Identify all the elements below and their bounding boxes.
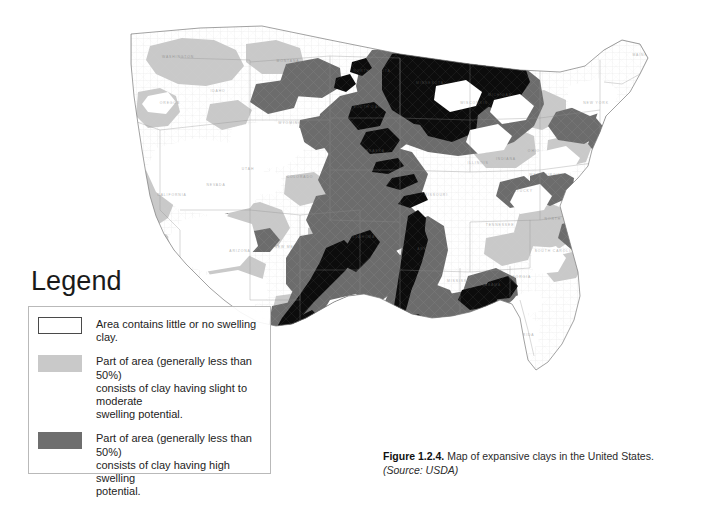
svg-text:WASHINGTON: WASHINGTON — [162, 55, 194, 59]
svg-text:WISCONSIN: WISCONSIN — [460, 101, 488, 105]
svg-text:NEBRASKA: NEBRASKA — [359, 149, 385, 153]
legend-item-label: Part of area (generally less than 50%) c… — [96, 431, 262, 498]
svg-text:CALIFORNIA: CALIFORNIA — [157, 193, 186, 197]
svg-text:IDAHO: IDAHO — [210, 89, 225, 93]
light-gray-slight-moderate-swatch — [38, 355, 82, 372]
svg-text:FLORIDA: FLORIDA — [514, 333, 535, 337]
legend: Legend Area contains little or no swelli… — [28, 268, 278, 474]
svg-text:ILLINOIS: ILLINOIS — [467, 161, 488, 165]
svg-text:IOWA: IOWA — [424, 143, 437, 147]
svg-text:INDIANA: INDIANA — [496, 157, 516, 161]
figure-caption-text: Map of expansive clays in the United Sta… — [447, 450, 654, 462]
legend-item-no-clay: Area contains little or no swelling clay… — [38, 316, 262, 344]
svg-text:NEW MEXICO: NEW MEXICO — [274, 245, 305, 249]
svg-text:MONTANA: MONTANA — [276, 59, 299, 63]
svg-text:KANSAS: KANSAS — [358, 193, 377, 197]
svg-text:NORTH DAKOTA: NORTH DAKOTA — [353, 69, 390, 73]
legend-box: Area contains little or no swelling clay… — [28, 306, 271, 474]
legend-item-slight-moderate: Part of area (generally less than 50%) c… — [38, 354, 262, 421]
svg-text:GEORGIA: GEORGIA — [509, 275, 531, 279]
legend-title: Legend — [31, 268, 278, 295]
svg-text:KENTUCKY: KENTUCKY — [507, 189, 533, 193]
figure-source: (Source: USDA) — [383, 463, 695, 477]
legend-item-label: Part of area (generally less than 50%) c… — [96, 354, 262, 421]
svg-text:TEXAS: TEXAS — [322, 293, 338, 297]
svg-text:OREGON: OREGON — [160, 101, 180, 105]
svg-text:WEST VIRGINIA: WEST VIRGINIA — [529, 173, 566, 177]
svg-text:PENNSYLVANIA: PENNSYLVANIA — [562, 137, 598, 141]
svg-text:WYOMING: WYOMING — [278, 121, 301, 125]
svg-text:MINNESOTA: MINNESOTA — [416, 81, 444, 85]
figure-number: Figure 1.2.4. — [383, 450, 444, 462]
svg-text:LOUISIANA: LOUISIANA — [411, 303, 437, 307]
svg-text:ALABAMA: ALABAMA — [479, 283, 501, 287]
svg-text:ARKANSAS: ARKANSAS — [417, 247, 443, 251]
svg-text:NORTH CAROLINA: NORTH CAROLINA — [545, 217, 588, 221]
svg-text:MISSISSIPPI: MISSISSIPPI — [447, 279, 477, 283]
svg-text:UTAH: UTAH — [242, 167, 255, 171]
svg-text:SOUTH DAKOTA: SOUTH DAKOTA — [353, 105, 390, 109]
svg-text:OHIO: OHIO — [528, 149, 540, 153]
legend-item-high-swelling: Part of area (generally less than 50%) c… — [38, 431, 262, 498]
svg-text:NEW YORK: NEW YORK — [583, 101, 609, 105]
legend-item-label: Area contains little or no swelling clay… — [96, 316, 262, 344]
svg-text:SOUTH CAROLINA: SOUTH CAROLINA — [535, 249, 578, 253]
mid-gray-high-swatch — [38, 432, 82, 449]
svg-text:MICHIGAN: MICHIGAN — [488, 93, 512, 97]
svg-text:NEVADA: NEVADA — [206, 183, 225, 187]
svg-text:TENNESSEE: TENNESSEE — [486, 223, 515, 227]
svg-text:OKLAHOMA: OKLAHOMA — [349, 235, 375, 239]
svg-text:MISSOURI: MISSOURI — [424, 193, 448, 197]
figure-caption: Figure 1.2.4. Map of expansive clays in … — [383, 449, 695, 477]
svg-text:ARIZONA: ARIZONA — [229, 249, 250, 253]
white-no-clay-swatch — [38, 317, 82, 334]
svg-text:COLORADO: COLORADO — [287, 175, 314, 179]
